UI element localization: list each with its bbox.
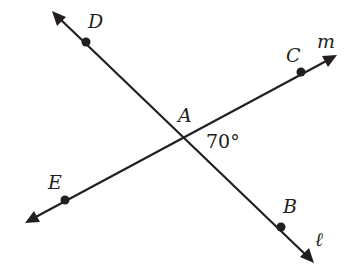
angle-label: 70°: [206, 130, 240, 152]
intersecting-lines-diagram: D C m A 70° E B ℓ: [0, 0, 355, 277]
label-line-m: m: [317, 30, 335, 52]
label-a: A: [176, 104, 192, 126]
label-d: D: [87, 10, 103, 32]
point-e-dot: [61, 196, 70, 205]
label-c: C: [286, 44, 301, 66]
label-line-l: ℓ: [315, 228, 323, 250]
label-b: B: [282, 195, 297, 217]
point-d-dot: [82, 38, 91, 47]
label-e: E: [47, 171, 62, 193]
point-c-dot: [297, 68, 306, 77]
point-b-dot: [277, 223, 286, 232]
